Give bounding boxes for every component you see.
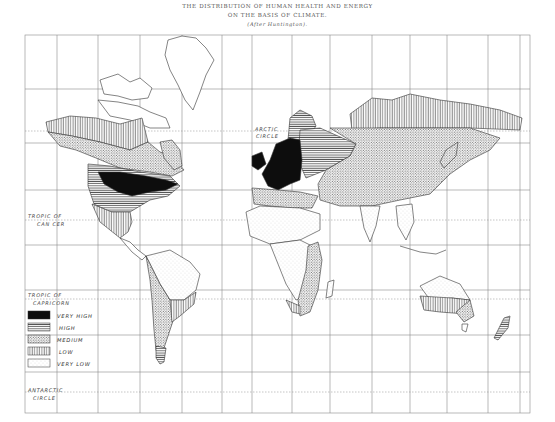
tropic-capricorn-label-2: CAPRICORN bbox=[33, 300, 70, 306]
tropic-capricorn-label-1: TROPIC OF bbox=[28, 292, 62, 298]
southeast-asia bbox=[396, 204, 414, 240]
south-africa-low bbox=[286, 300, 300, 314]
legend-label-low: LOW bbox=[59, 349, 73, 355]
legend-swatch-very-low bbox=[28, 359, 50, 367]
indonesia bbox=[400, 246, 446, 254]
north-africa-medium bbox=[252, 188, 318, 208]
tropic-cancer-label-2: CAN CER bbox=[37, 221, 65, 227]
tasmania bbox=[462, 324, 468, 332]
world-map: ARCTIC CIRCLE TROPIC OF CAN CER TROPIC O… bbox=[0, 0, 555, 422]
legend-swatch-medium bbox=[28, 335, 50, 343]
central-america bbox=[120, 238, 146, 260]
legend-label-medium: MEDIUM bbox=[57, 337, 83, 343]
british-isles bbox=[252, 152, 266, 170]
madagascar bbox=[326, 280, 334, 298]
new-zealand-high bbox=[494, 316, 510, 340]
arctic-circle-label-2: CIRCLE bbox=[256, 133, 279, 139]
siberia-low bbox=[350, 94, 522, 130]
india-very-low bbox=[360, 206, 380, 242]
europe-very-high bbox=[262, 138, 302, 190]
sahara-very-low bbox=[246, 206, 320, 244]
tropic-cancer-label-1: TROPIC OF bbox=[28, 213, 62, 219]
legend-label-high: HIGH bbox=[59, 325, 76, 331]
greenland bbox=[165, 36, 214, 110]
legend-swatch-very-high bbox=[28, 311, 50, 319]
legend: VERY HIGH HIGH MEDIUM LOW VERY LOW bbox=[28, 311, 93, 367]
legend-label-very-low: VERY LOW bbox=[57, 361, 91, 367]
legend-swatch-high bbox=[28, 323, 50, 331]
legend-swatch-low bbox=[28, 347, 50, 355]
arctic-circle-label-1: ARCTIC bbox=[254, 126, 278, 132]
legend-label-very-high: VERY HIGH bbox=[57, 313, 93, 319]
antarctic-circle-label-1: ANTARCTIC bbox=[27, 387, 63, 393]
patagonia-high bbox=[156, 346, 166, 364]
arctic-archipelago bbox=[100, 74, 152, 100]
antarctic-circle-label-2: CIRCLE bbox=[33, 395, 56, 401]
